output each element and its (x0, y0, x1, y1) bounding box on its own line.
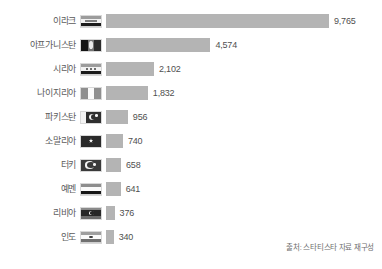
category-label: 시리아 (0, 65, 76, 74)
bar-value-label: 2,102 (159, 65, 181, 74)
bar-area: 4,574 (106, 38, 382, 52)
flag-pakistan-icon (80, 111, 102, 124)
bar-value-label: 740 (128, 137, 142, 146)
bar-area: 641 (106, 182, 382, 196)
bar-area: 956 (106, 110, 382, 124)
bar (106, 86, 148, 100)
bar-area: 1,832 (106, 86, 382, 100)
category-label: 터키 (0, 161, 76, 170)
bar-value-label: 376 (120, 209, 134, 218)
table-row: 시리아 2,102 (0, 57, 382, 81)
flag-syria-icon (80, 63, 102, 76)
table-row: 리비아 376 (0, 201, 382, 225)
table-row: 이라크 9,765 (0, 9, 382, 33)
bar-value-label: 9,765 (334, 17, 356, 26)
bar-value-label: 1,832 (153, 89, 175, 98)
bar-area: 740 (106, 134, 382, 148)
bar (106, 134, 123, 148)
flag-somalia-icon (80, 135, 102, 148)
flag-yemen-icon (80, 183, 102, 196)
bar-value-label: 4,574 (215, 41, 237, 50)
category-label: 아프가니스탄 (0, 41, 76, 50)
bar-value-label: 658 (126, 161, 140, 170)
bar-value-label: 340 (119, 233, 133, 242)
bar (106, 230, 114, 244)
flag-iraq-icon (80, 15, 102, 28)
table-row: 터키 658 (0, 153, 382, 177)
bar (106, 182, 121, 196)
flag-afghanistan-icon (80, 39, 102, 52)
bar (106, 38, 210, 52)
category-label: 예멘 (0, 185, 76, 194)
category-label: 파키스탄 (0, 113, 76, 122)
category-label: 리비아 (0, 209, 76, 218)
bar (106, 14, 329, 28)
bar-area: 2,102 (106, 62, 382, 76)
bar-area: 658 (106, 158, 382, 172)
category-label: 소말리아 (0, 137, 76, 146)
table-row: 아프가니스탄 4,574 (0, 33, 382, 57)
flag-turkey-icon (80, 159, 102, 172)
flag-nigeria-icon (80, 87, 102, 100)
table-row: 예멘 641 (0, 177, 382, 201)
bar (106, 158, 121, 172)
bar (106, 62, 154, 76)
table-row: 파키스탄 956 (0, 105, 382, 129)
bar-area: 340 (106, 230, 382, 244)
chart-rows: 이라크 9,765 아프가니스탄 4,574 시리아 (0, 9, 382, 249)
table-row: 소말리아 740 (0, 129, 382, 153)
bar (106, 110, 128, 124)
flag-india-icon (80, 231, 102, 244)
category-label: 이라크 (0, 17, 76, 26)
source-note: 출처: 스타티스타 자료 재구성 (286, 244, 374, 252)
bar-area: 376 (106, 206, 382, 220)
bar-chart: 이라크 9,765 아프가니스탄 4,574 시리아 (0, 0, 382, 269)
table-row: 나이지리아 1,832 (0, 81, 382, 105)
category-label: 인도 (0, 233, 76, 242)
flag-libya-icon (80, 207, 102, 220)
bar-value-label: 641 (126, 185, 140, 194)
bar (106, 206, 115, 220)
bar-value-label: 956 (133, 113, 147, 122)
category-label: 나이지리아 (0, 89, 76, 98)
bar-area: 9,765 (106, 14, 382, 28)
